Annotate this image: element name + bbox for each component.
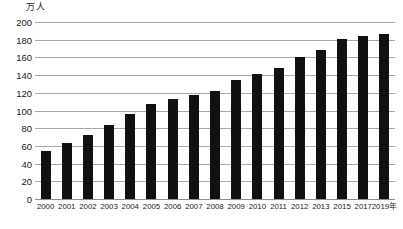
y-axis-tick-label: 80 [2,124,32,133]
x-axis-tick-label: 2015 [333,201,350,213]
gridline [35,199,395,200]
bar [41,151,51,199]
x-axis-tick-label: 2000 [37,201,54,213]
x-axis-tick-label: 2012 [291,201,308,213]
x-axis-tick-label: 2011 [270,201,287,213]
x-axis-tick-label: 2007 [185,201,202,213]
bar [231,80,241,199]
y-axis-tick-label: 60 [2,141,32,150]
bar [104,125,114,199]
x-axis-tick-labels: 2000200120022003200420052006200720082009… [35,201,395,217]
y-axis-tick-label: 160 [2,53,32,62]
gridline [35,22,395,23]
y-axis-tick-label: 120 [2,88,32,97]
x-axis-tick-label: 2019年 [372,201,397,213]
y-axis-tick-label: 20 [2,177,32,186]
bar [125,114,135,199]
x-axis-tick-label: 2013 [312,201,329,213]
bar [316,50,326,199]
bar [210,91,220,199]
bar [295,57,305,199]
bar [274,68,284,199]
y-axis-unit-label: 万人 [26,2,45,13]
bar [83,135,93,199]
x-axis-tick-label: 2009 [227,201,244,213]
bar [337,39,347,199]
bar-chart-figure: 万人 020406080100120140160180200 200020012… [0,0,403,229]
y-axis-tick-label: 180 [2,35,32,44]
x-axis-tick-label: 2005 [143,201,160,213]
x-axis-tick-label: 2017 [355,201,372,213]
plot-area [35,22,395,199]
y-axis-tick-label: 140 [2,71,32,80]
y-axis-tick-label: 0 [2,195,32,204]
x-axis-tick-label: 2004 [122,201,139,213]
y-axis-tick-label: 100 [2,106,32,115]
bar [252,74,262,199]
x-axis-tick-label: 2008 [206,201,223,213]
bar [358,36,368,199]
y-axis-tick-labels: 020406080100120140160180200 [0,22,32,199]
y-axis-tick-label: 200 [2,18,32,27]
x-axis-tick-label: 2006 [164,201,181,213]
bar [62,143,72,199]
bar [189,95,199,199]
bar [379,34,389,199]
x-axis-tick-label: 2001 [58,201,75,213]
bar [146,104,156,199]
y-axis-tick-label: 40 [2,159,32,168]
bar [168,99,178,199]
x-axis-tick-label: 2002 [79,201,96,213]
x-axis-tick-label: 2010 [249,201,266,213]
x-axis-tick-label: 2003 [100,201,117,213]
